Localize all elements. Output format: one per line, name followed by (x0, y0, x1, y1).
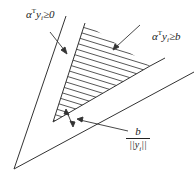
label-margin-distance-fraction: b ||yi|| (126, 126, 150, 153)
pointer-arrow-margin-region (113, 25, 140, 50)
fraction-numerator: b (126, 126, 150, 138)
margin-boundary-extension (150, 58, 165, 66)
fraction-denominator: ||yi|| (126, 139, 150, 153)
label-margin-inequality: αTyi≥b (152, 30, 180, 44)
solution-region-diagram (0, 0, 195, 182)
outer-wedge-left-boundary (14, 16, 66, 169)
margin-distance-arrow (64, 109, 75, 127)
outer-wedge-bottom-boundary (14, 72, 194, 169)
distance-label-leader (77, 117, 128, 131)
inner-triangle-boundary (53, 23, 150, 122)
pointer-arrow-half-space (50, 32, 67, 54)
label-half-space-inequality: αTyi≥0 (26, 8, 54, 22)
